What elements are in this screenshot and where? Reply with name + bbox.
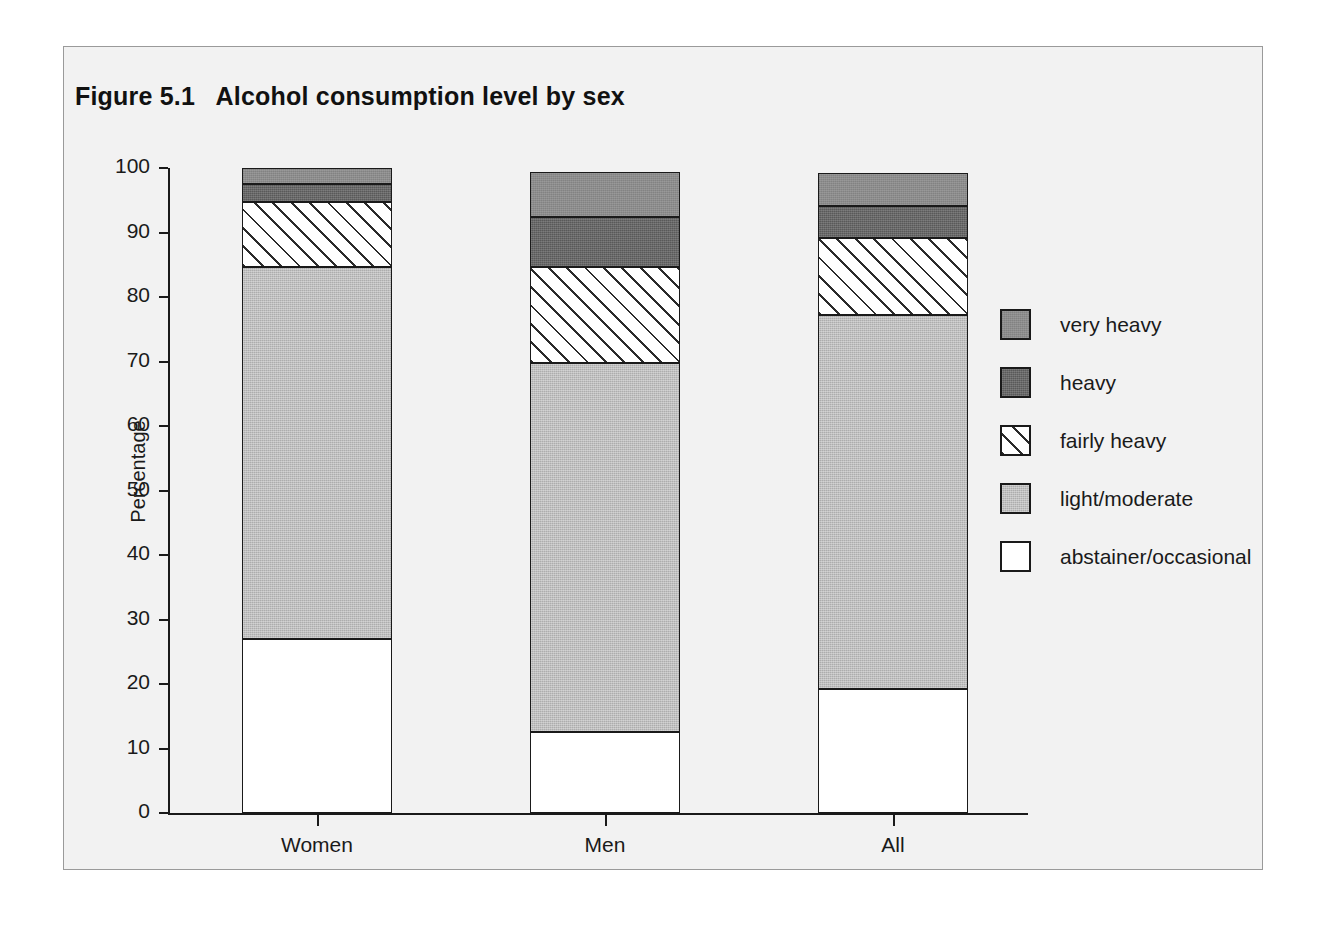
- legend-label-heavy: heavy: [1060, 367, 1116, 398]
- bar-segment-heavy: [818, 206, 968, 238]
- legend-label-very-heavy: very heavy: [1060, 309, 1162, 340]
- y-tick-label: 70: [90, 348, 150, 372]
- y-tick-label: 10: [90, 735, 150, 759]
- y-tick-label: 50: [90, 477, 150, 501]
- y-tick-mark: [159, 554, 168, 556]
- bar-segment-light-moderate: [818, 315, 968, 689]
- x-tick-mark: [893, 815, 895, 826]
- legend-swatch-heavy-icon: [1000, 367, 1031, 398]
- y-tick-mark: [159, 683, 168, 685]
- y-tick-mark: [159, 812, 168, 814]
- x-tick-mark: [605, 815, 607, 826]
- legend-label-abstainer-occasional: abstainer/occasional: [1060, 541, 1251, 572]
- bar-segment-very-heavy: [242, 168, 392, 184]
- y-tick-label: 30: [90, 606, 150, 630]
- x-axis-line: [168, 813, 1028, 815]
- y-tick-label: 100: [90, 154, 150, 178]
- y-tick-mark: [159, 619, 168, 621]
- y-tick-mark: [159, 232, 168, 234]
- y-tick-mark: [159, 748, 168, 750]
- y-axis-line: [168, 168, 170, 813]
- legend-swatch-fairly-heavy-icon: [1000, 425, 1031, 456]
- stacked-bar-all: [818, 168, 968, 813]
- y-tick-label: 40: [90, 541, 150, 565]
- y-tick-label: 60: [90, 412, 150, 436]
- bar-segment-heavy: [242, 184, 392, 202]
- bar-segment-fairly-heavy: [530, 267, 680, 363]
- legend-label-fairly-heavy: fairly heavy: [1060, 425, 1166, 456]
- y-tick-label: 80: [90, 283, 150, 307]
- x-tick-label-women: Women: [207, 833, 427, 857]
- bar-segment-light-moderate: [242, 267, 392, 639]
- y-tick-mark: [159, 361, 168, 363]
- x-tick-mark: [317, 815, 319, 826]
- y-tick-mark: [159, 425, 168, 427]
- y-tick-mark: [159, 490, 168, 492]
- bar-segment-light-moderate: [530, 363, 680, 732]
- bar-segment-abstainer-occasional: [818, 689, 968, 813]
- x-tick-label-men: Men: [495, 833, 715, 857]
- stacked-bar-women: [242, 168, 392, 813]
- figure-title: Figure 5.1 Alcohol consumption level by …: [75, 82, 625, 111]
- legend-label-light-moderate: light/moderate: [1060, 483, 1193, 514]
- x-tick-label-all: All: [783, 833, 1003, 857]
- y-tick-label: 20: [90, 670, 150, 694]
- bar-segment-fairly-heavy: [242, 202, 392, 267]
- legend-swatch-light-moderate-icon: [1000, 483, 1031, 514]
- bar-segment-very-heavy: [530, 172, 680, 217]
- bar-segment-abstainer-occasional: [530, 732, 680, 813]
- y-tick-mark: [159, 167, 168, 169]
- y-tick-mark: [159, 296, 168, 298]
- y-tick-label: 0: [90, 799, 150, 823]
- y-tick-label: 90: [90, 219, 150, 243]
- bar-segment-abstainer-occasional: [242, 639, 392, 813]
- legend-swatch-abstainer-occasional-icon: [1000, 541, 1031, 572]
- chart-plot-area: Percentage 1009080706050403020100 WomenM…: [168, 168, 1028, 813]
- bar-segment-very-heavy: [818, 173, 968, 206]
- legend-swatch-very-heavy-icon: [1000, 309, 1031, 340]
- bar-segment-fairly-heavy: [818, 238, 968, 315]
- bar-segment-heavy: [530, 217, 680, 267]
- stacked-bar-men: [530, 168, 680, 813]
- page-corner-mark: [1232, 849, 1238, 855]
